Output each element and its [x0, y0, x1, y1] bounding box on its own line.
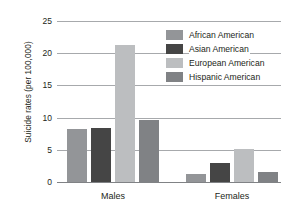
- legend-label: African American: [189, 30, 255, 40]
- bar: [258, 172, 278, 182]
- legend-swatch-icon: [166, 30, 183, 40]
- bar: [210, 163, 230, 182]
- legend-label: European American: [189, 58, 265, 68]
- x-axis-label-females: Females: [215, 191, 250, 201]
- y-tick-label: 5: [47, 145, 52, 155]
- legend: African AmericanAsian AmericanEuropean A…: [166, 29, 265, 83]
- bar: [115, 45, 135, 182]
- y-axis-title: Suicide rates (per 100,000): [23, 17, 33, 167]
- bar: [139, 120, 159, 182]
- legend-swatch-icon: [166, 58, 183, 68]
- legend-swatch-icon: [166, 44, 183, 54]
- bar: [234, 149, 254, 182]
- x-axis-label-males: Males: [101, 191, 125, 201]
- legend-item: Hispanic American: [166, 71, 265, 83]
- bar: [67, 129, 87, 182]
- bar-chart: Suicide rates (per 100,000) 0510152025 M…: [0, 0, 289, 216]
- y-tick-label: 20: [43, 48, 52, 58]
- bar: [186, 174, 206, 182]
- legend-item: African American: [166, 29, 265, 41]
- y-tick-label: 15: [43, 80, 52, 90]
- y-tick-label: 0: [47, 177, 52, 187]
- x-axis-line: [57, 182, 281, 183]
- bar: [91, 128, 111, 182]
- legend-item: Asian American: [166, 43, 265, 55]
- legend-label: Hispanic American: [189, 72, 261, 82]
- y-tick-label: 10: [43, 113, 52, 123]
- legend-swatch-icon: [166, 72, 183, 82]
- legend-label: Asian American: [189, 44, 250, 54]
- legend-item: European American: [166, 57, 265, 69]
- y-tick-label: 25: [43, 16, 52, 26]
